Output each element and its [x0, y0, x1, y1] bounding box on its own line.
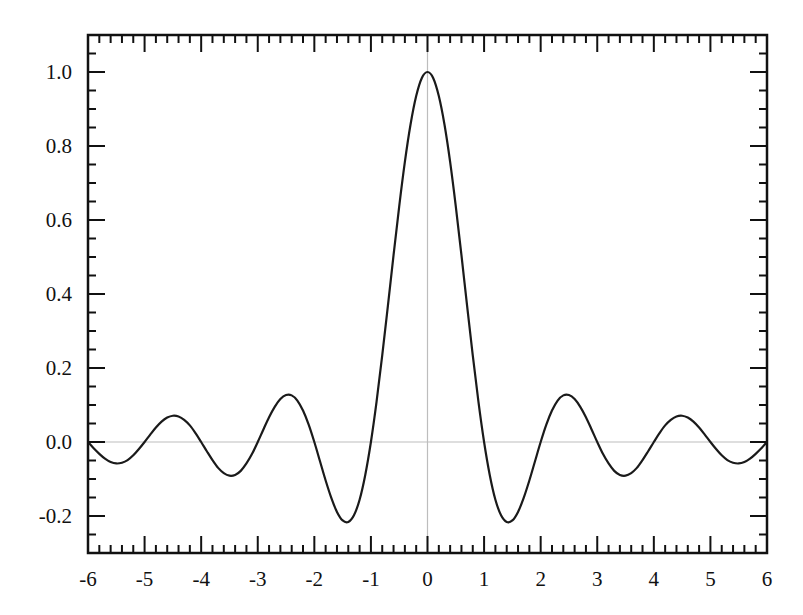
reference-lines: [88, 35, 767, 553]
x-tick-label: 3: [592, 567, 603, 591]
y-tick-label: 0.6: [46, 208, 72, 232]
x-tick-label: -4: [192, 567, 210, 591]
y-tick-label: 0.4: [46, 282, 73, 306]
y-tick-label: -0.2: [39, 504, 72, 528]
y-tick-label: 0.8: [46, 134, 72, 158]
y-tick-label: 0.2: [46, 356, 72, 380]
x-tick-label: 4: [649, 567, 660, 591]
x-axis-tick-labels: -6-5-4-3-2-10123456: [79, 567, 772, 591]
x-tick-label: 6: [762, 567, 773, 591]
x-tick-label: -1: [362, 567, 380, 591]
x-tick-label: -2: [306, 567, 324, 591]
y-tick-label: 1.0: [46, 60, 72, 84]
x-tick-label: 1: [479, 567, 490, 591]
x-tick-label: 5: [705, 567, 716, 591]
x-tick-label: -3: [249, 567, 267, 591]
y-axis-tick-labels: -0.20.00.20.40.60.81.0: [39, 60, 73, 528]
x-tick-label: -6: [79, 567, 97, 591]
y-tick-label: 0.0: [46, 430, 72, 454]
sinc-line-chart: -6-5-4-3-2-10123456 -0.20.00.20.40.60.81…: [0, 0, 803, 615]
x-tick-label: 0: [422, 567, 433, 591]
x-tick-label: -5: [136, 567, 154, 591]
x-tick-label: 2: [535, 567, 546, 591]
